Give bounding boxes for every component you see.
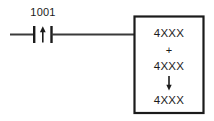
up-arrow-icon <box>40 26 46 42</box>
block-operand-2: 4XXX <box>154 60 185 72</box>
transition-contact[interactable] <box>34 26 51 43</box>
diagram-canvas: 1001 4XXX + 4XXX 4XXX <box>0 0 214 121</box>
ladder-logic-diagram: 1001 4XXX + 4XXX 4XXX <box>0 0 214 121</box>
block-operator-plus: + <box>166 44 172 56</box>
block-operand-1: 4XXX <box>154 27 185 39</box>
contact-label: 1001 <box>30 6 55 18</box>
block-result: 4XXX <box>154 94 185 106</box>
